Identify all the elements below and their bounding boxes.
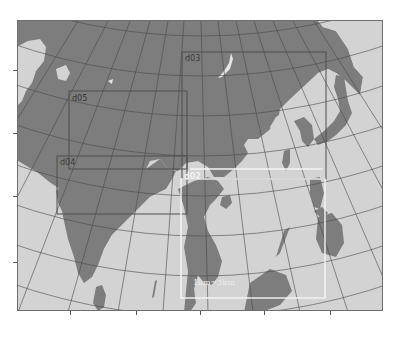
axis-tick-left [13, 196, 17, 197]
resolution-label: 1km~3km [193, 278, 235, 287]
axis-tick-bottom [330, 311, 331, 315]
map-frame: d03 d05 d04 d02 1km~3km [17, 20, 383, 311]
axis-tick-bottom [136, 311, 137, 315]
axis-tick-bottom [200, 311, 201, 315]
axis-tick-bottom [264, 311, 265, 315]
axis-tick-left [13, 70, 17, 71]
axis-tick-left [13, 262, 17, 263]
domain-label-d02: d02 [184, 172, 201, 181]
axis-tick-left [13, 133, 17, 134]
domain-label-d05: d05 [72, 94, 87, 103]
axis-tick-bottom [70, 311, 71, 315]
domain-label-d03: d03 [185, 54, 200, 63]
domain-label-d04: d04 [60, 158, 75, 167]
